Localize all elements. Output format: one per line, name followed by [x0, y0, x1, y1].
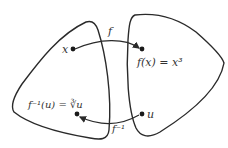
- label-u: u: [147, 108, 154, 121]
- point-finv-u: [75, 112, 80, 117]
- codomain-set-outline: [127, 14, 224, 136]
- label-f-inverse: f⁻¹: [111, 123, 125, 134]
- point-fx: [140, 47, 145, 52]
- function-mapping-diagram: x f f(x) = x³ u f⁻¹(u) = ∛u f⁻¹: [0, 0, 228, 148]
- point-x: [71, 47, 76, 52]
- arrow-f: [75, 41, 139, 49]
- point-u: [140, 112, 145, 117]
- domain-set-outline: [12, 21, 109, 139]
- label-x: x: [62, 43, 69, 56]
- label-f: f: [107, 25, 114, 38]
- label-finv-u: f⁻¹(u) = ∛u: [27, 98, 83, 110]
- label-fx: f(x) = x³: [136, 56, 183, 69]
